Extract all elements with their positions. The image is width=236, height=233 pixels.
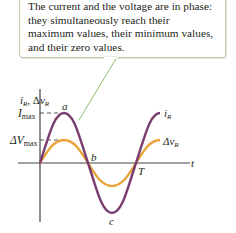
period-T-label: T bbox=[138, 165, 145, 177]
y-axis-label: iR, ΔvR bbox=[20, 94, 50, 108]
point-a-label: a bbox=[62, 100, 68, 112]
vmax-label: ΔVmax bbox=[9, 134, 38, 148]
point-b-label: b bbox=[91, 151, 97, 163]
current-curve-label: iR bbox=[164, 107, 172, 121]
x-axis-label: t bbox=[191, 157, 195, 169]
point-c-label: c bbox=[109, 215, 114, 227]
callout-pointer bbox=[79, 57, 117, 120]
voltage-curve-label: ΔvR bbox=[162, 135, 179, 149]
imax-label: Imax bbox=[17, 107, 36, 121]
phase-diagram: iR, ΔvR Imax ΔVmax a b c T t iR ΔvR bbox=[0, 0, 236, 233]
